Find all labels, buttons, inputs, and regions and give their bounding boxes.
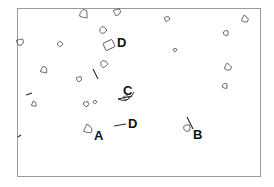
particle	[103, 39, 115, 50]
pointer-line	[114, 124, 126, 126]
particle	[101, 61, 108, 68]
particle	[84, 124, 93, 133]
particle	[58, 41, 63, 47]
particle	[31, 101, 36, 106]
label-a: A	[94, 129, 103, 142]
pointer-line	[93, 69, 98, 79]
particle	[224, 31, 229, 36]
pointer-lines-layer	[18, 69, 193, 137]
pointer-line	[26, 93, 32, 95]
pointer-line	[18, 135, 21, 137]
particle	[164, 17, 170, 22]
particle	[242, 15, 249, 22]
particle-canvas	[0, 0, 274, 187]
label-d-top: D	[117, 36, 126, 49]
particle	[225, 63, 232, 70]
label-c: C	[123, 84, 132, 97]
particle	[113, 9, 120, 16]
particle	[76, 77, 81, 82]
particle	[173, 49, 177, 52]
particle	[222, 83, 227, 88]
particle	[93, 100, 97, 104]
particle	[80, 10, 88, 18]
particle	[184, 125, 190, 131]
particle	[16, 39, 23, 46]
particle	[100, 26, 107, 33]
particles-layer	[16, 9, 248, 133]
label-d-mid: D	[128, 117, 137, 130]
label-b: B	[193, 128, 202, 141]
particle	[83, 102, 88, 107]
particle	[40, 66, 46, 73]
